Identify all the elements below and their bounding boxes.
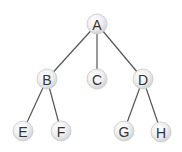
edge-a-b (47, 24, 97, 79)
nodes-layer: ABCDEFGH (13, 14, 171, 142)
node-label: E (18, 124, 27, 140)
node-b: B (37, 69, 57, 89)
node-g: G (114, 121, 134, 141)
node-c: C (87, 69, 107, 89)
node-label: H (156, 125, 166, 141)
node-d: D (133, 69, 153, 89)
node-label: D (138, 72, 148, 88)
node-a: A (87, 14, 107, 34)
tree-diagram: ABCDEFGH (0, 0, 182, 152)
node-label: C (92, 72, 102, 88)
tree-canvas: ABCDEFGH (0, 0, 182, 152)
node-label: B (42, 72, 51, 88)
edge-a-d (97, 24, 143, 79)
node-label: A (92, 17, 102, 33)
node-label: G (119, 124, 130, 140)
node-h: H (151, 122, 171, 142)
node-label: F (57, 124, 66, 140)
node-f: F (51, 121, 71, 141)
node-e: E (13, 121, 33, 141)
